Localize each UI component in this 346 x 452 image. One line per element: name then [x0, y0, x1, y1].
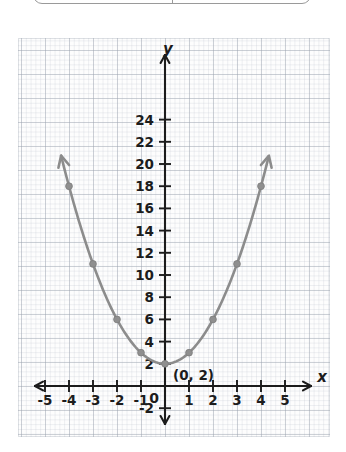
y-tick-label: 14	[135, 223, 154, 239]
y-tick-label: 6	[145, 311, 154, 327]
y-tick-label: 22	[135, 134, 154, 150]
y-tick-label: 24	[135, 112, 154, 128]
x-tick-label: 2	[208, 392, 217, 408]
data-point	[258, 183, 265, 190]
data-point	[90, 261, 97, 268]
data-point	[114, 316, 121, 323]
top-table-box	[33, 0, 311, 4]
data-point	[234, 261, 241, 268]
y-axis-label: y	[163, 40, 174, 58]
top-table-column-divider	[172, 0, 173, 3]
x-tick-label: 1	[184, 392, 193, 408]
y-tick-label: 16	[135, 200, 154, 216]
y-tick-label: 4	[145, 334, 154, 350]
x-axis-label: x	[316, 368, 328, 386]
data-point	[138, 349, 145, 356]
data-point	[66, 183, 73, 190]
data-point	[210, 316, 217, 323]
x-tick-label: 3	[232, 392, 241, 408]
y-tick-label: 10	[135, 267, 154, 283]
y-tick-label: 8	[145, 289, 154, 305]
x-tick-label: 4	[256, 392, 265, 408]
data-point	[162, 360, 169, 367]
x-tick-label: -2	[110, 392, 125, 408]
y-tick-label: 20	[135, 156, 154, 172]
graph-paper: -5-4-3-2-1012345-224681012141618202224xy…	[18, 38, 330, 437]
vertex-annotation: (0, 2)	[173, 367, 214, 383]
x-tick-label: -3	[86, 392, 101, 408]
y-tick-label: -2	[139, 400, 154, 416]
x-tick-label: 5	[280, 392, 289, 408]
y-tick-label: 18	[135, 178, 154, 194]
x-tick-label: -4	[62, 392, 77, 408]
parabola-chart: -5-4-3-2-1012345-224681012141618202224xy…	[18, 38, 330, 437]
y-tick-label: 12	[135, 245, 154, 261]
data-point	[186, 349, 193, 356]
x-tick-label: -5	[38, 392, 53, 408]
